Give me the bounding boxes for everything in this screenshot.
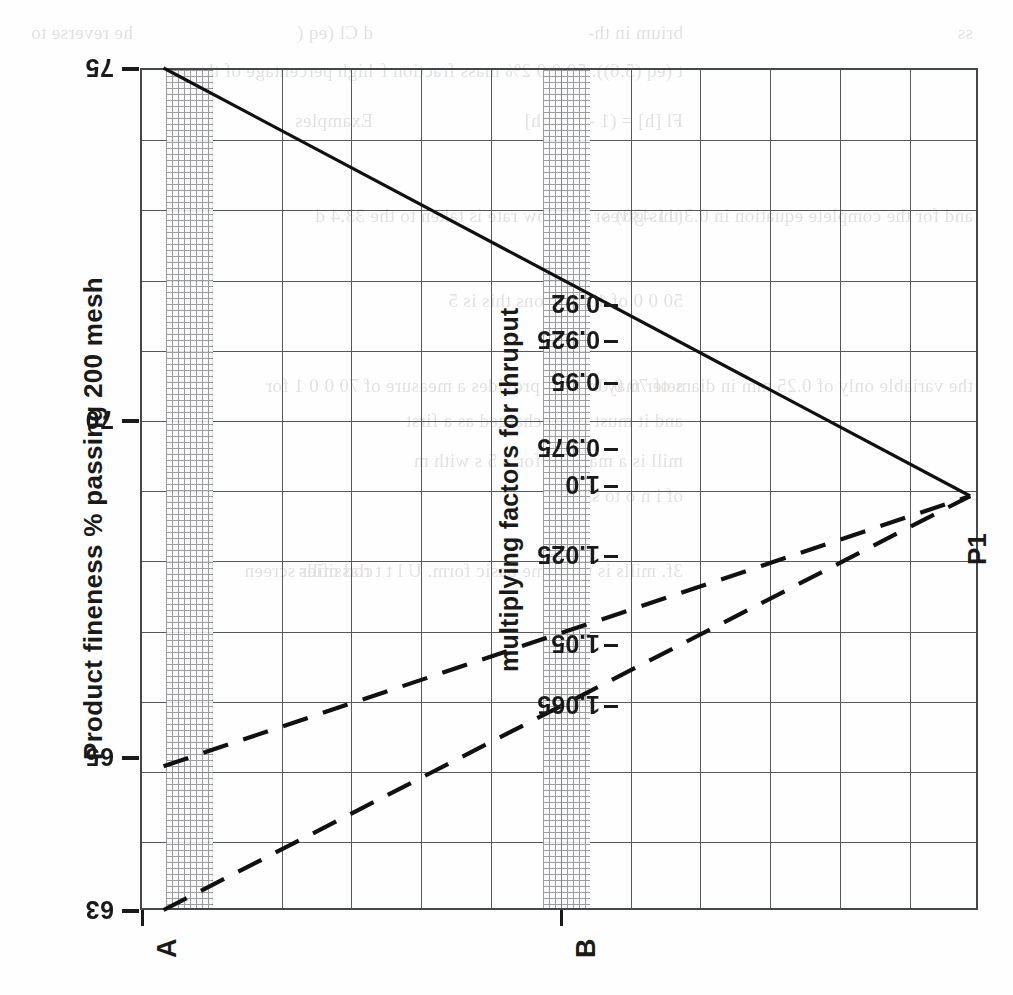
factor-tick-label: 0.925 (537, 325, 600, 354)
y-tick-mark (122, 909, 139, 913)
chart-canvas: Product fineness % passing 200 mesh mult… (0, 0, 1013, 995)
y-tick-mark (122, 419, 139, 423)
factor-tick-dash (604, 448, 618, 451)
marker-b-label: B (571, 939, 602, 959)
factor-tick-label: 0.92 (551, 289, 600, 318)
y-tick-mark (122, 756, 139, 760)
factor-tick-label: 1.025 (537, 540, 600, 569)
factor-tick-dash (604, 485, 618, 488)
y-tick-mark (122, 67, 139, 71)
y-tick-label: 63 (85, 895, 114, 924)
curve-1 (164, 68, 971, 496)
factor-tick-label: 1.065 (537, 690, 600, 719)
y-axis-title: Product fineness % passing 200 mesh (78, 277, 109, 760)
y-tick-label: 70 (85, 405, 114, 434)
factor-tick-label: 0.975 (537, 433, 600, 462)
factor-tick-dash (604, 705, 618, 708)
factor-tick-dash (604, 644, 618, 647)
factor-tick-label: 1.0 (565, 470, 600, 499)
factor-tick-dash (604, 555, 618, 558)
factor-tick-label: 0.95 (551, 367, 600, 396)
factor-tick-label: 1.05 (551, 629, 600, 658)
y-tick-label: 65 (85, 742, 114, 771)
marker-b-tick (560, 910, 563, 926)
factor-axis-title: multiplying factors for thruput (495, 307, 524, 672)
y-tick-label: 75 (85, 53, 114, 82)
marker-a-tick (141, 910, 144, 926)
factor-tick-dash (604, 382, 618, 385)
p1-label: P1 (962, 533, 993, 565)
factor-tick-dash (604, 340, 618, 343)
factor-tick-dash (604, 304, 618, 307)
marker-a-label: A (152, 939, 183, 959)
